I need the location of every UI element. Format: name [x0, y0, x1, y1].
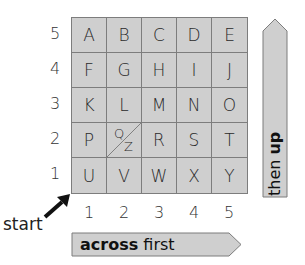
- grid-cell: B: [107, 18, 142, 53]
- grid-cell: QZ: [107, 123, 142, 158]
- row-number: 5: [47, 24, 63, 43]
- column-number: 1: [79, 203, 99, 222]
- grid-cell: I: [177, 53, 212, 88]
- grid-cell: P: [72, 123, 107, 158]
- across-bold: across: [80, 235, 138, 254]
- grid-cell: T: [212, 123, 247, 158]
- split-cell-bottom: Z: [124, 139, 133, 154]
- column-number: 3: [149, 203, 169, 222]
- row-number: 4: [47, 59, 63, 78]
- row-number: 1: [47, 164, 63, 183]
- up-arrow-label: then up: [264, 76, 286, 196]
- grid-cell: F: [72, 53, 107, 88]
- grid-cell: H: [142, 53, 177, 88]
- column-number: 4: [184, 203, 204, 222]
- row-number: 2: [47, 129, 63, 148]
- grid-cell: Y: [212, 158, 247, 193]
- grid-cell: A: [72, 18, 107, 53]
- grid-cell: R: [142, 123, 177, 158]
- column-number: 5: [219, 203, 239, 222]
- split-cell-top: Q: [114, 126, 124, 141]
- grid-cell: W: [142, 158, 177, 193]
- grid-cell: K: [72, 88, 107, 123]
- grid-cell: G: [107, 53, 142, 88]
- letter-grid: ABCDEFGHIJKLMNOPQZRSTUVWXY: [71, 17, 248, 194]
- grid-cell: J: [212, 53, 247, 88]
- grid-cell: X: [177, 158, 212, 193]
- grid-cell: N: [177, 88, 212, 123]
- up-rest: then: [265, 155, 284, 196]
- grid-cell: U: [72, 158, 107, 193]
- grid-cell: C: [142, 18, 177, 53]
- up-bold: up: [265, 132, 284, 155]
- start-label: start: [3, 214, 43, 234]
- start-arrow-icon: [45, 194, 70, 217]
- grid-cell: V: [107, 158, 142, 193]
- row-number: 3: [47, 94, 63, 113]
- across-arrow-label: across first: [80, 235, 175, 254]
- column-number: 2: [114, 203, 134, 222]
- grid-cell: D: [177, 18, 212, 53]
- grid-cell: S: [177, 123, 212, 158]
- across-rest: first: [138, 235, 174, 254]
- grid-cell: L: [107, 88, 142, 123]
- grid-cell: O: [212, 88, 247, 123]
- grid-cell: E: [212, 18, 247, 53]
- grid-cell: M: [142, 88, 177, 123]
